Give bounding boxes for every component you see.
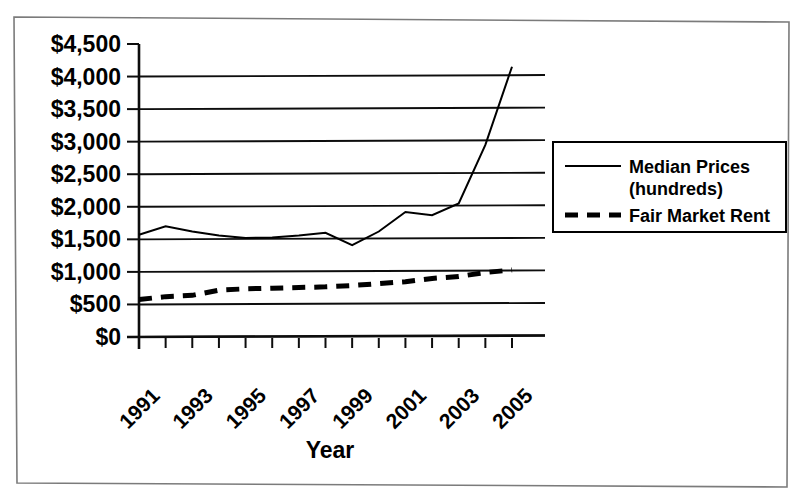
- plot-area: $4,500$4,000$3,500$3,000$2,500$2,000$1,5…: [51, 31, 545, 463]
- gridline-y: [139, 303, 545, 305]
- ytick-label: $3,000: [51, 129, 121, 155]
- xtick-label: 2001: [381, 383, 431, 433]
- legend-label-median-prices-line2: (hundreds): [629, 179, 723, 199]
- gridline-y: [139, 140, 545, 142]
- xtick-label: 1993: [168, 384, 217, 433]
- series-line-median-prices: [139, 67, 512, 245]
- ytick-label: $2,000: [51, 194, 121, 220]
- gridline-y: [139, 173, 545, 175]
- xtick-label: 2003: [434, 384, 483, 433]
- legend-label-fair-market-rent: Fair Market Rent: [629, 206, 770, 226]
- xtick-label: 1997: [274, 384, 323, 433]
- chart-figure: $4,500$4,000$3,500$3,000$2,500$2,000$1,5…: [0, 0, 804, 497]
- x-axis-line: [127, 336, 545, 338]
- line-chart-canvas: $4,500$4,000$3,500$3,000$2,500$2,000$1,5…: [0, 0, 804, 497]
- series-line-fair-market-rent: [139, 270, 512, 300]
- gridline-y: [139, 205, 545, 207]
- gridline-y: [139, 270, 545, 272]
- ytick-label: $500: [70, 291, 121, 317]
- chart-legend: Median Prices(hundreds)Fair Market Rent: [553, 142, 786, 232]
- xtick-label: 1999: [328, 384, 377, 433]
- gridline-y: [139, 108, 545, 110]
- ytick-label: $4,000: [51, 64, 121, 90]
- gridline-y: [139, 75, 545, 77]
- legend-label-median-prices: Median Prices: [629, 157, 750, 177]
- ytick-label: $1,000: [51, 259, 121, 285]
- ytick-label: $4,500: [51, 31, 121, 57]
- xtick-label: 1991: [115, 383, 165, 433]
- ytick-label: $2,500: [51, 161, 121, 187]
- x-axis-title: Year: [306, 437, 355, 463]
- xtick-label: 1995: [221, 383, 271, 433]
- gridline-y: [139, 238, 545, 240]
- ytick-label: $1,500: [51, 226, 121, 252]
- ytick-label: $3,500: [51, 96, 121, 122]
- xtick-label: 2005: [488, 383, 538, 433]
- ytick-label: $0: [95, 324, 121, 350]
